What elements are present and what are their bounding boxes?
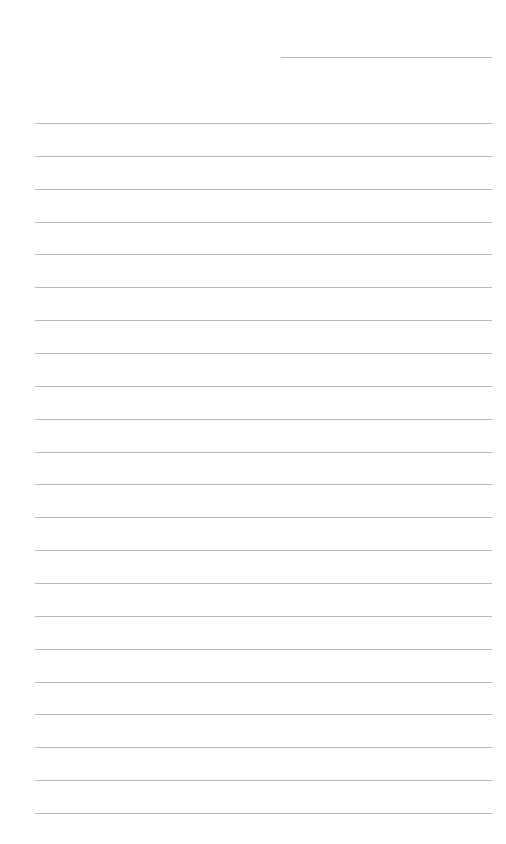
ruled-line [35,189,492,190]
ruled-line [35,452,492,453]
ruled-line [35,156,492,157]
ruled-line [35,550,492,551]
ruled-line [35,419,492,420]
ruled-line [35,583,492,584]
ruled-line [35,123,492,124]
ruled-line [35,484,492,485]
ruled-line [35,222,492,223]
ruled-line [35,254,492,255]
ruled-line [35,747,492,748]
ruled-line [35,320,492,321]
ruled-line [35,649,492,650]
ruled-line [35,517,492,518]
lined-paper-page [0,0,506,844]
ruled-line [35,386,492,387]
date-line [281,57,492,58]
ruled-line [35,616,492,617]
ruled-line [35,682,492,683]
ruled-line [35,813,492,814]
ruled-line [35,353,492,354]
ruled-line [35,780,492,781]
ruled-line [35,714,492,715]
ruled-line [35,287,492,288]
